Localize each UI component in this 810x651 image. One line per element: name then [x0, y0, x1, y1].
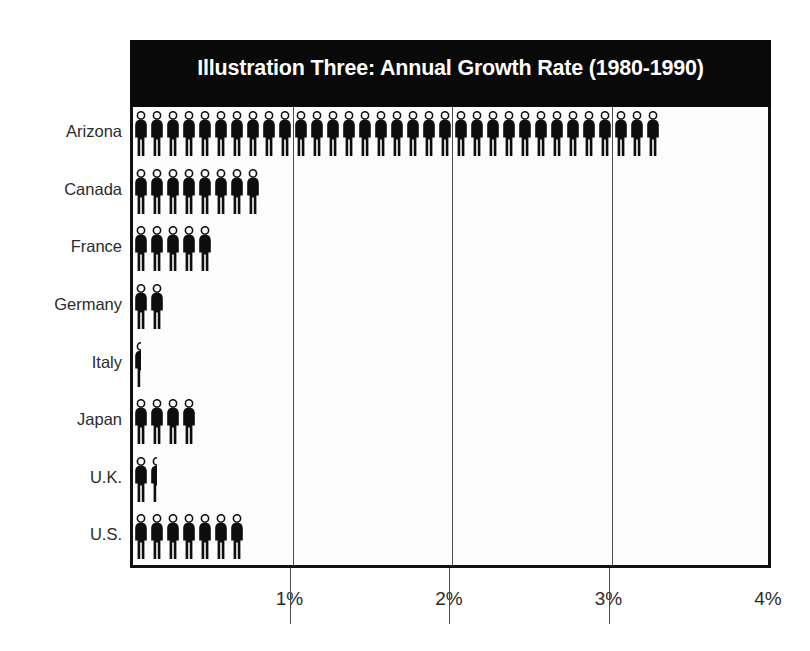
- person-figure-icon: [181, 398, 197, 445]
- person-figure-icon: [421, 110, 437, 157]
- pictogram-row: [133, 168, 261, 215]
- person-figure-icon: [389, 110, 405, 157]
- pictogram-chart: Illustration Three: Annual Growth Rate (…: [0, 0, 810, 651]
- y-axis-label-italy: Italy: [12, 353, 122, 372]
- person-figure-icon: [149, 168, 165, 215]
- person-figure-icon: [213, 110, 229, 157]
- person-figure-icon: [485, 110, 501, 157]
- person-figure-icon: [165, 225, 181, 272]
- person-figure-icon: [181, 110, 197, 157]
- person-figure-icon: [149, 283, 165, 330]
- gridline-1pct: [293, 107, 294, 565]
- person-figure-icon: [165, 168, 181, 215]
- person-figure-icon: [277, 110, 293, 157]
- person-figure-icon: [549, 110, 565, 157]
- person-figure-icon: [213, 513, 229, 560]
- person-figure-icon: [645, 110, 659, 157]
- person-figure-icon: [181, 168, 197, 215]
- person-figure-icon: [133, 398, 149, 445]
- person-figure-icon: [517, 110, 533, 157]
- x-axis-tick-mark: [449, 568, 450, 624]
- person-figure-icon: [597, 110, 613, 157]
- person-figure-icon: [309, 110, 325, 157]
- person-figure-icon: [133, 456, 149, 503]
- person-figure-icon: [437, 110, 453, 157]
- person-figure-icon: [133, 283, 149, 330]
- person-figure-icon: [181, 225, 197, 272]
- pictogram-row: [133, 283, 165, 330]
- person-figure-icon: [325, 110, 341, 157]
- person-figure-icon: [133, 110, 149, 157]
- person-figure-icon: [453, 110, 469, 157]
- person-figure-icon: [149, 110, 165, 157]
- person-figure-icon: [229, 110, 245, 157]
- pictogram-row: [133, 398, 197, 445]
- chart-title: Illustration Three: Annual Growth Rate (…: [130, 56, 771, 81]
- person-figure-icon: [197, 513, 213, 560]
- y-axis-labels: ArizonaCanadaFranceGermanyItalyJapanU.K.…: [8, 107, 122, 568]
- person-figure-icon: [533, 110, 549, 157]
- person-figure-icon: [133, 513, 149, 560]
- pictogram-row: [133, 110, 659, 157]
- person-figure-icon: [165, 398, 181, 445]
- y-axis-label-france: France: [12, 237, 122, 256]
- y-axis-label-us: U.S.: [12, 525, 122, 544]
- person-figure-icon: [373, 110, 389, 157]
- y-axis-label-uk: U.K.: [12, 468, 122, 487]
- person-figure-icon: [133, 168, 149, 215]
- person-figure-icon: [165, 513, 181, 560]
- person-figure-icon: [469, 110, 485, 157]
- person-figure-icon: [197, 168, 213, 215]
- person-figure-icon: [357, 110, 373, 157]
- person-figure-icon: [165, 110, 181, 157]
- gridline-2pct: [452, 107, 453, 565]
- pictogram-row: [133, 341, 141, 388]
- person-figure-icon: [613, 110, 629, 157]
- y-axis-label-germany: Germany: [12, 295, 122, 314]
- person-figure-icon: [213, 168, 229, 215]
- person-figure-icon: [565, 110, 581, 157]
- person-figure-icon: [261, 110, 277, 157]
- y-axis-label-canada: Canada: [12, 180, 122, 199]
- x-axis-tick-mark: [290, 568, 291, 624]
- person-figure-icon: [245, 110, 261, 157]
- person-figure-icon: [197, 110, 213, 157]
- person-figure-icon: [405, 110, 421, 157]
- person-figure-icon: [581, 110, 597, 157]
- plot-area: [133, 107, 768, 565]
- person-figure-icon: [501, 110, 517, 157]
- person-figure-icon: [229, 513, 245, 560]
- person-figure-icon: [149, 513, 165, 560]
- pictogram-row: [133, 456, 157, 503]
- y-axis-label-arizona: Arizona: [12, 122, 122, 141]
- person-figure-icon: [245, 168, 261, 215]
- x-axis-tick-mark: [609, 568, 610, 624]
- person-figure-icon: [629, 110, 645, 157]
- person-figure-icon: [149, 456, 157, 503]
- pictogram-row: [133, 225, 213, 272]
- person-figure-icon: [181, 513, 197, 560]
- pictogram-row: [133, 513, 245, 560]
- chart-title-bar: Illustration Three: Annual Growth Rate (…: [130, 40, 771, 107]
- person-figure-icon: [197, 225, 213, 272]
- gridline-3pct: [612, 107, 613, 565]
- person-figure-icon: [229, 168, 245, 215]
- person-figure-icon: [149, 225, 165, 272]
- person-figure-icon: [133, 341, 141, 388]
- plot-frame: [130, 107, 771, 568]
- person-figure-icon: [293, 110, 309, 157]
- x-axis-tick-4pct: 4%: [738, 588, 798, 610]
- person-figure-icon: [149, 398, 165, 445]
- person-figure-icon: [341, 110, 357, 157]
- y-axis-label-japan: Japan: [12, 410, 122, 429]
- person-figure-icon: [133, 225, 149, 272]
